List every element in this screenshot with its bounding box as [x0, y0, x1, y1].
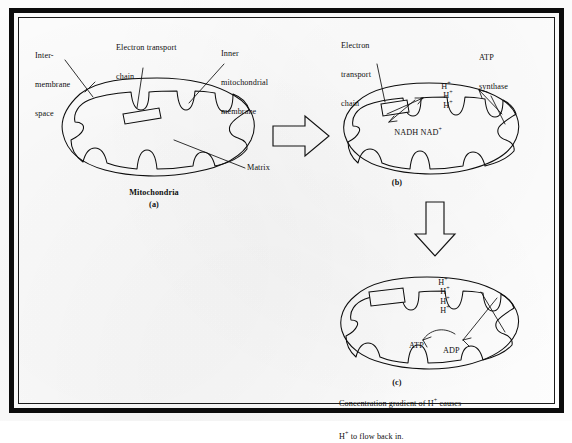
etc-complex-box-a	[123, 108, 161, 124]
etc-complex-box-b	[381, 100, 409, 116]
label-inner-mitochondrial-membrane-a: Inner mitochondrial membrane	[221, 30, 268, 136]
panel-a-id: (a)	[99, 200, 209, 210]
figure-caption: Concentration gradient of H+ causes H+ t…	[339, 376, 549, 443]
panel-a-title: Mitochondria	[99, 188, 209, 198]
panel-b-id: (b)	[377, 178, 417, 188]
label-adp-c: ADP	[443, 346, 460, 356]
proton-flow-arrow-c	[463, 298, 497, 346]
label-nad-plus: NAD+	[420, 128, 442, 137]
caption-line-2: H+ to flow back in.	[339, 431, 549, 442]
proton-group-b: H+ H+ H+	[424, 72, 453, 120]
proton-b-3: H+	[441, 101, 453, 110]
leader-matrix-a	[174, 140, 245, 168]
label-nadh: NADH	[394, 128, 418, 137]
label-atp-c: ATP	[409, 341, 424, 351]
proton-c-4: H+	[438, 306, 450, 315]
label-matrix-a: Matrix	[247, 163, 270, 173]
panel-a: Inter- membrane space Electron transport…	[19, 18, 281, 218]
label-nadh-nad-b: NADH NAD+	[377, 118, 442, 147]
label-intermembrane-space-a: Inter- membrane space	[35, 32, 70, 138]
label-atp-synthase-b: ATP synthase	[479, 34, 508, 111]
leader-etc-b	[377, 64, 385, 102]
leader-inner-membrane-a	[189, 64, 224, 103]
atp-synthase-channel-c	[481, 292, 505, 332]
caption-line-1: Concentration gradient of H+ causes	[339, 398, 549, 409]
adp-to-atp-arrow-c	[423, 330, 455, 347]
label-electron-transport-chain-b: Electron transport chain	[341, 22, 371, 128]
figure-stage: Inter- membrane space Electron transport…	[19, 18, 553, 403]
proton-group-c: H+ H+ H+ H+	[421, 268, 450, 326]
label-electron-transport-chain-a: Electron transport chain	[116, 24, 177, 101]
panel-b: Electron transport chain ATP synthase H+…	[319, 18, 553, 198]
etc-complex-box-c	[369, 288, 405, 306]
